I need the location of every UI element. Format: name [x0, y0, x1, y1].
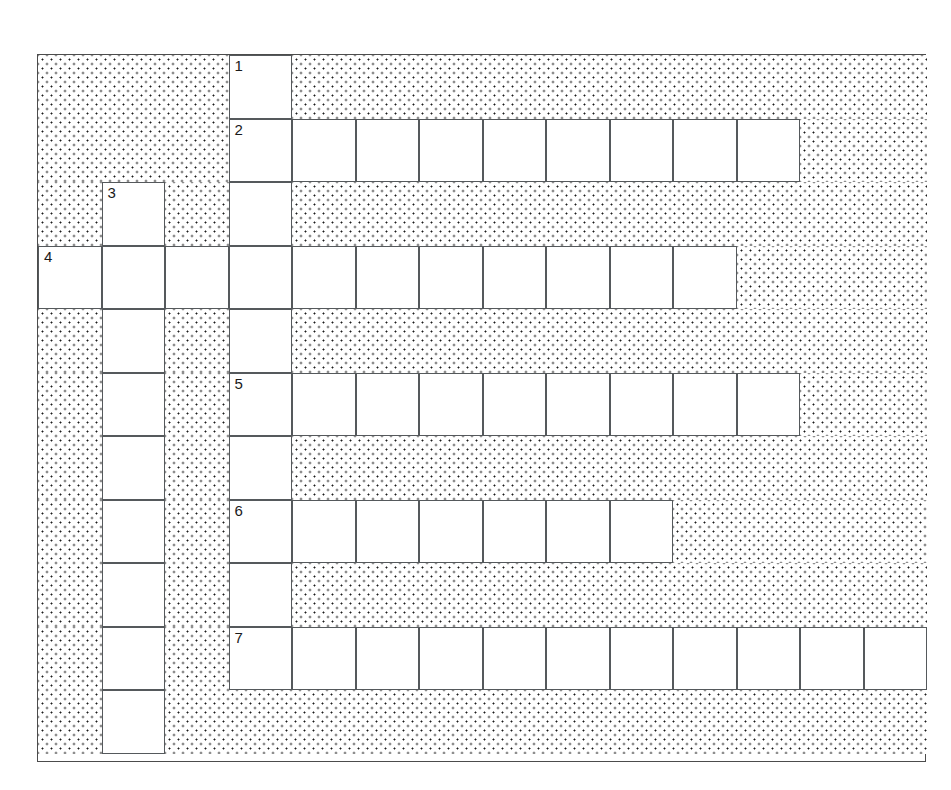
crossword-cell[interactable] — [356, 500, 420, 564]
crossword-cell[interactable] — [800, 627, 864, 691]
crossword-cell[interactable] — [610, 246, 674, 310]
block-row3-col3 — [165, 182, 229, 246]
block-row3-right — [292, 182, 927, 246]
crossword-cell[interactable] — [610, 373, 674, 437]
cell-number-1: 1 — [235, 58, 243, 74]
block-top-right — [292, 55, 927, 119]
block-row9-col3 — [165, 563, 229, 627]
crossword-cell[interactable] — [102, 309, 166, 373]
crossword-cell[interactable] — [102, 563, 166, 627]
block-row8-col1 — [38, 500, 102, 564]
block-row11-col1 — [38, 690, 102, 754]
crossword-cell[interactable] — [483, 246, 547, 310]
crossword-cell[interactable] — [419, 119, 483, 183]
crossword-cell[interactable] — [229, 563, 293, 627]
cell-number-6: 6 — [235, 503, 243, 519]
crossword-cell[interactable] — [102, 373, 166, 437]
crossword-cell[interactable] — [737, 119, 801, 183]
crossword-cell[interactable] — [610, 500, 674, 564]
crossword-cell[interactable] — [292, 119, 356, 183]
crossword-puzzle-page: 1256734 — [0, 0, 951, 790]
crossword-cell[interactable] — [356, 373, 420, 437]
crossword-cell[interactable]: 2 — [229, 119, 293, 183]
crossword-cell[interactable] — [356, 119, 420, 183]
crossword-cell[interactable]: 3 — [102, 182, 166, 246]
crossword-cell[interactable] — [546, 373, 610, 437]
crossword-cell[interactable] — [292, 373, 356, 437]
crossword-cell[interactable] — [419, 246, 483, 310]
crossword-cell[interactable] — [419, 500, 483, 564]
crossword-cell[interactable] — [229, 182, 293, 246]
crossword-cell[interactable]: 6 — [229, 500, 293, 564]
block-row2-right — [800, 119, 927, 183]
cell-number-7: 7 — [235, 630, 243, 646]
crossword-cell[interactable] — [546, 119, 610, 183]
crossword-cell[interactable] — [673, 119, 737, 183]
block-row3-col1 — [38, 182, 102, 246]
block-row7-col3 — [165, 436, 229, 500]
crossword-cell[interactable] — [483, 373, 547, 437]
block-row10-col3 — [165, 627, 229, 691]
crossword-cell[interactable] — [610, 627, 674, 691]
crossword-cell[interactable] — [673, 627, 737, 691]
cell-number-3: 3 — [108, 185, 116, 201]
block-row6-col1 — [38, 373, 102, 437]
block-row6-right — [800, 373, 927, 437]
crossword-cell[interactable] — [229, 246, 293, 310]
crossword-cell[interactable] — [419, 373, 483, 437]
block-row5-col1 — [38, 309, 102, 373]
crossword-cell[interactable] — [229, 309, 293, 373]
crossword-cell[interactable] — [102, 627, 166, 691]
crossword-cell[interactable] — [737, 627, 801, 691]
crossword-cell[interactable]: 1 — [229, 55, 293, 119]
cell-number-5: 5 — [235, 376, 243, 392]
crossword-grid[interactable]: 1256734 — [37, 54, 926, 762]
crossword-cell[interactable] — [673, 373, 737, 437]
crossword-cell[interactable] — [673, 246, 737, 310]
crossword-cell[interactable] — [546, 500, 610, 564]
crossword-cell[interactable] — [546, 246, 610, 310]
crossword-cell[interactable] — [546, 627, 610, 691]
crossword-cell[interactable]: 4 — [38, 246, 102, 310]
crossword-cell[interactable] — [610, 119, 674, 183]
crossword-cell[interactable] — [356, 627, 420, 691]
crossword-cell[interactable]: 5 — [229, 373, 293, 437]
crossword-cell[interactable] — [483, 627, 547, 691]
crossword-cell[interactable]: 7 — [229, 627, 293, 691]
crossword-cell[interactable] — [419, 627, 483, 691]
crossword-cell[interactable] — [483, 119, 547, 183]
cell-number-2: 2 — [235, 122, 243, 138]
crossword-cell[interactable] — [864, 627, 928, 691]
block-row9-col1 — [38, 563, 102, 627]
crossword-cell[interactable] — [292, 627, 356, 691]
crossword-cell[interactable] — [102, 500, 166, 564]
crossword-cell[interactable] — [737, 373, 801, 437]
block-row7-right — [292, 436, 927, 500]
block-row7-col1 — [38, 436, 102, 500]
crossword-cell[interactable] — [102, 690, 166, 754]
block-row5-col3 — [165, 309, 229, 373]
block-row5-right — [292, 309, 927, 373]
block-row4-right — [737, 246, 928, 310]
cell-number-4: 4 — [44, 249, 52, 265]
block-row9-right — [292, 563, 927, 627]
crossword-cell[interactable] — [165, 246, 229, 310]
crossword-cell[interactable] — [102, 436, 166, 500]
crossword-cell[interactable] — [102, 246, 166, 310]
block-row11-right — [165, 690, 927, 754]
crossword-cell[interactable] — [356, 246, 420, 310]
crossword-cell[interactable] — [292, 246, 356, 310]
crossword-cell[interactable] — [483, 500, 547, 564]
block-row8-col3 — [165, 500, 229, 564]
crossword-cell[interactable] — [229, 436, 293, 500]
block-row10-col1 — [38, 627, 102, 691]
block-row6-col3 — [165, 373, 229, 437]
crossword-cell[interactable] — [292, 500, 356, 564]
block-row8-right — [673, 500, 927, 564]
